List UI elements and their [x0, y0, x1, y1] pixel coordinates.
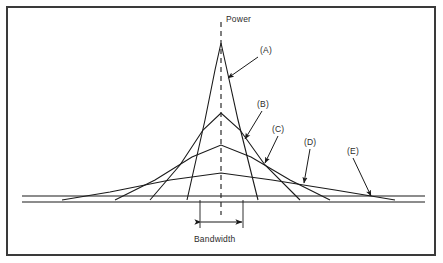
leader-line-b — [245, 111, 262, 139]
leader-line-d — [304, 149, 310, 183]
leader-line-e — [353, 158, 371, 196]
callout-label-b: (B) — [257, 99, 269, 109]
spectral-curves — [62, 43, 395, 200]
leader-line-c — [265, 136, 278, 163]
callout-label-e: (E) — [347, 146, 359, 156]
power-axis-label: Power — [226, 14, 251, 24]
leader-line-a — [228, 57, 258, 78]
callout-label-d: (D) — [304, 137, 316, 147]
callout-leader-lines — [228, 57, 371, 196]
figure-root: Power Bandwidth (A) (B) (C) (D) (E) — [0, 0, 443, 263]
callout-label-c: (C) — [272, 124, 284, 134]
spectrum-diagram — [0, 0, 443, 263]
callout-label-a: (A) — [260, 45, 272, 55]
curve-C — [115, 145, 330, 200]
bandwidth-axis-label: Bandwidth — [194, 234, 236, 244]
